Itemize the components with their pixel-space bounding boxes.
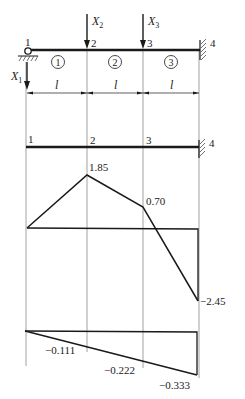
value-label-n4: −2.45 [200, 295, 226, 307]
node-label-3: 3 [146, 134, 152, 146]
node-guide-lines [26, 50, 199, 378]
span-label-3: l [170, 78, 174, 92]
value-label-n4: −0.333 [159, 379, 190, 391]
fixed-support-icon [199, 139, 205, 158]
node-label-4: 4 [209, 137, 215, 149]
node-label-1: 1 [28, 133, 34, 145]
span-label-1: l [55, 78, 59, 92]
span-label-2: l [114, 78, 118, 92]
influence-diagram: −0.111 −0.222 −0.333 [25, 331, 197, 391]
beam-diagram: X2 X3 X1 1 2 3 4 1 2 3 l l l [0, 0, 245, 399]
structure-model: X2 X3 X1 1 2 3 4 1 2 3 l l l [10, 14, 216, 95]
load-label-x3: X3 [147, 14, 159, 30]
node-label-2: 2 [91, 37, 97, 49]
value-label-n2: 1.85 [89, 161, 109, 173]
node-label-3: 3 [147, 37, 153, 49]
value-label-n3: 0.70 [146, 195, 166, 207]
load-arrow-x2-icon [84, 14, 90, 49]
element-label-1: 1 [56, 57, 61, 68]
load-arrow-x3-icon [140, 14, 146, 49]
moment-diagram: 1.85 0.70 −2.45 [27, 161, 226, 307]
element-label-2: 2 [113, 57, 118, 68]
node-label-2: 2 [90, 134, 96, 146]
element-label-3: 3 [169, 57, 174, 68]
load-label-x1: X1 [10, 69, 22, 85]
node-label-4: 4 [210, 37, 216, 49]
value-label-n3: −0.222 [104, 364, 135, 376]
node-label-1: 1 [25, 36, 31, 48]
fixed-support-icon [200, 39, 206, 60]
load-label-x2: X2 [91, 14, 103, 30]
pin-support-icon [25, 48, 31, 54]
value-label-n2: −0.111 [45, 344, 75, 356]
load-arrow-x1-icon [24, 62, 30, 90]
beam-reference: 1 2 3 4 [26, 133, 215, 158]
